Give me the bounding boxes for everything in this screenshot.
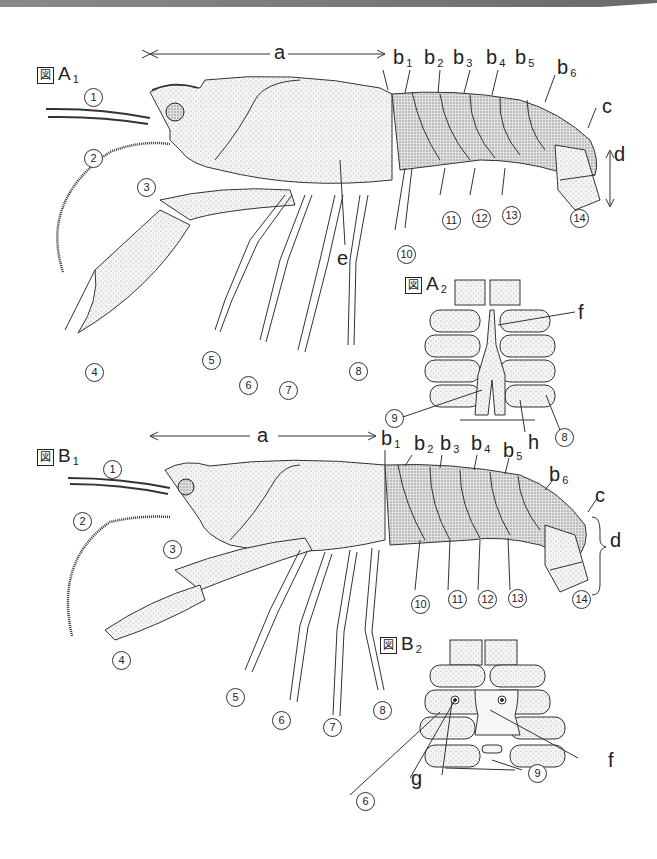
num-1-b1: 1 <box>103 460 122 479</box>
num-12-a1: 12 <box>472 209 491 228</box>
num-12-b1: 12 <box>478 590 497 609</box>
num-8-a2: 8 <box>555 428 574 447</box>
label-e-a1: e <box>337 248 348 268</box>
num-13-b1: 13 <box>508 589 527 608</box>
label-a-b1: a <box>257 425 268 445</box>
num-2-a1: 2 <box>84 149 103 168</box>
num-9-a2: 9 <box>385 409 404 428</box>
num-7-a1: 7 <box>279 381 298 400</box>
num-8-a1: 8 <box>349 362 368 381</box>
label-g-b2: g <box>411 768 422 788</box>
figure-a1-drawing <box>46 50 614 352</box>
num-4-a1: 4 <box>85 363 104 382</box>
num-6-a1: 6 <box>239 376 258 395</box>
label-b5-a1: b5 <box>515 47 534 67</box>
num-8-b1: 8 <box>373 701 392 720</box>
num-11-b1: 11 <box>448 590 467 609</box>
figure-a2-drawing <box>400 280 575 432</box>
num-9-b2: 9 <box>528 764 547 783</box>
figure-label-a1: 図A1 <box>37 64 79 84</box>
num-6-b1: 6 <box>272 711 291 730</box>
label-h-a2: h <box>528 432 539 452</box>
label-c-a1: c <box>602 96 612 116</box>
num-10-a1: 10 <box>397 245 416 264</box>
num-2-b1: 2 <box>73 512 92 531</box>
figure-label-a2: 図A2 <box>405 274 447 294</box>
label-b2-a1: b2 <box>424 47 443 67</box>
label-a-a1: a <box>274 42 285 62</box>
label-b3-a1: b3 <box>453 47 472 67</box>
num-1-a1: 1 <box>84 88 103 107</box>
num-10-b1: 10 <box>411 595 430 614</box>
num-14-b1: 14 <box>572 590 591 609</box>
num-3-a1: 3 <box>137 178 156 197</box>
num-11-a1: 11 <box>442 211 461 230</box>
label-b2-b1: b2 <box>414 433 433 453</box>
label-b1-a1: b1 <box>393 47 412 67</box>
label-f-b2: f <box>608 750 614 770</box>
num-5-a1: 5 <box>202 351 221 370</box>
label-c-b1: c <box>595 485 605 505</box>
label-f-a2: f <box>578 302 584 322</box>
num-3-b1: 3 <box>163 540 182 559</box>
label-d-a1: d <box>614 144 625 164</box>
label-b5-b1: b5 <box>503 440 522 460</box>
label-b4-b1: b4 <box>471 433 490 453</box>
label-b6-b1: b6 <box>549 464 568 484</box>
num-7-b1: 7 <box>323 718 342 737</box>
figure-label-b1: 図B1 <box>37 446 79 466</box>
label-d-b1: d <box>610 530 621 550</box>
num-6-b2: 6 <box>356 792 375 811</box>
num-14-a1: 14 <box>570 209 589 228</box>
label-b6-a1: b6 <box>557 57 576 77</box>
num-13-a1: 13 <box>502 206 521 225</box>
label-b3-b1: b3 <box>440 433 459 453</box>
num-4-b1: 4 <box>112 651 131 670</box>
label-b4-a1: b4 <box>486 47 505 67</box>
figure-label-b2: 図B2 <box>380 634 422 654</box>
label-b1-b1: b1 <box>381 428 400 448</box>
num-5-b1: 5 <box>226 688 245 707</box>
